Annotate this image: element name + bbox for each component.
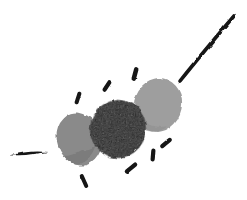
- abstract-ink-sketch: [0, 0, 247, 200]
- artwork-canvas: Abstract Ink Sketch Three overlapping ha…: [0, 0, 247, 200]
- canvas-background: [0, 0, 247, 200]
